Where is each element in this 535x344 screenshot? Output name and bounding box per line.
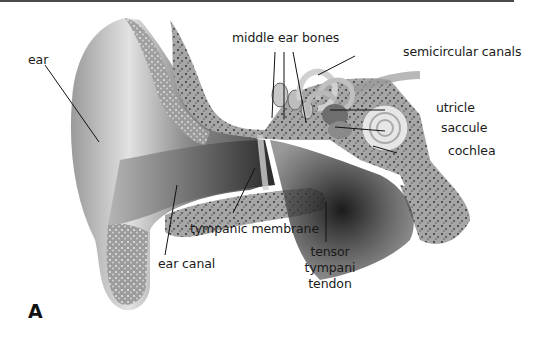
label-tensor-tympani-tendon: tensor tympani tendon xyxy=(303,244,357,292)
label-semicircular-canals: semicircular canals xyxy=(403,44,521,60)
label-cochlea: cochlea xyxy=(448,143,495,159)
label-tensor-line3: tendon xyxy=(303,276,357,292)
label-tensor-line2: tympani xyxy=(303,260,357,276)
label-ear-canal: ear canal xyxy=(158,256,215,272)
label-ear: ear xyxy=(28,52,48,68)
label-tensor-line1: tensor xyxy=(303,244,357,260)
panel-letter: A xyxy=(28,300,43,322)
label-middle-ear-bones: middle ear bones xyxy=(232,30,339,46)
label-saccule: saccule xyxy=(441,120,487,136)
label-tympanic-membrane: tympanic membrane xyxy=(190,221,319,237)
label-utricle: utricle xyxy=(436,100,475,116)
